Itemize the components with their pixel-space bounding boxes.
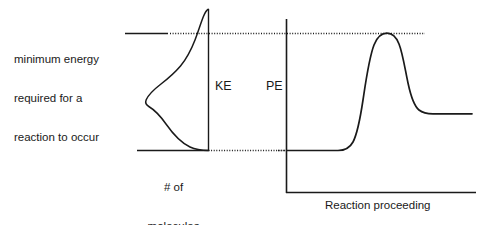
annotation-line-3: reaction to occur xyxy=(14,131,99,144)
annotation-line-2: required for a xyxy=(14,92,99,105)
annotation-line-1: minimum energy xyxy=(14,53,99,66)
molecules-axis-label-line-1: # of xyxy=(136,181,211,194)
reaction-progress-axis-label: Reaction proceeding xyxy=(325,199,431,212)
molecules-axis-label: # of molecules xyxy=(136,155,211,225)
pe-axis-label: PE xyxy=(266,80,283,93)
kinetic-energy-distribution-curve xyxy=(146,9,209,150)
minimum-energy-annotation: minimum energy required for a reaction t… xyxy=(14,27,99,157)
ke-axis-label: KE xyxy=(215,80,232,93)
molecules-axis-label-line-2: molecules xyxy=(136,220,211,225)
potential-energy-curve xyxy=(287,33,472,150)
